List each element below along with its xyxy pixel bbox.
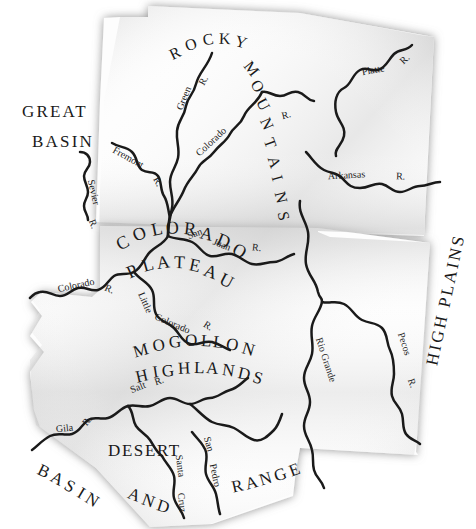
label-great-basin-line1: GREAT [22, 102, 88, 121]
svg-text:H: H [177, 358, 191, 378]
label-basin-range-basin: B A S I N [35, 460, 104, 512]
river-label-gila: Gila [55, 421, 74, 434]
river-label-arkansas-r: R. [396, 170, 406, 181]
physiographic-map: GREAT BASIN R O C K Y M O U N T A I N S … [0, 0, 476, 529]
svg-text:L: L [194, 358, 206, 377]
svg-text:A: A [155, 251, 172, 273]
river-label-arkansas: Arkansas [328, 168, 366, 181]
svg-text:A: A [205, 358, 220, 378]
map-canvas: GREAT BASIN R O C K Y M O U N T A I N S … [0, 0, 476, 529]
svg-text:O: O [165, 217, 180, 238]
svg-text:T: T [174, 252, 187, 272]
svg-text:L: L [212, 332, 226, 352]
river-label-san-juan-r: R. [252, 241, 262, 253]
landmass-group [0, 0, 476, 529]
svg-text:L: L [201, 331, 213, 351]
river-label-colorado-lower: Colorado [57, 276, 96, 294]
svg-text:G: G [161, 360, 176, 380]
svg-text:G: G [168, 331, 183, 351]
label-desert: DESERT [108, 441, 181, 460]
label-great-basin-line2: BASIN [32, 132, 94, 151]
land-shading [0, 0, 476, 529]
svg-text:K: K [219, 30, 232, 47]
